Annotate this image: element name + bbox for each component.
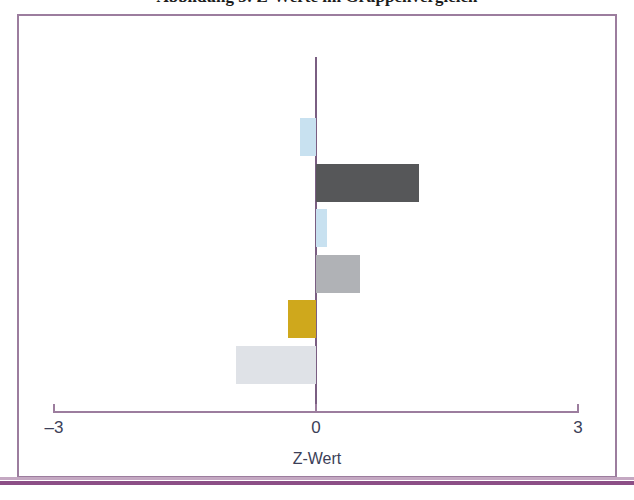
bar-3-light-blue [316,209,327,247]
bar-6-pale-gray [236,346,316,384]
bar-chart-plot-area: –3 0 3 Z-Wert [0,0,634,500]
bar-1-light-blue [300,118,316,156]
x-tick-mark-left [53,404,55,413]
x-tick-mark-right [577,404,579,413]
bar-5-gold [288,300,316,338]
x-tick-label-left: –3 [24,418,84,438]
x-tick-mark-center [315,404,317,413]
x-tick-label-center: 0 [286,418,346,438]
x-tick-label-right: 3 [548,418,608,438]
bar-4-medium-gray [316,255,360,293]
x-axis-title: Z-Wert [0,450,634,468]
bar-2-dark-gray [316,164,419,202]
